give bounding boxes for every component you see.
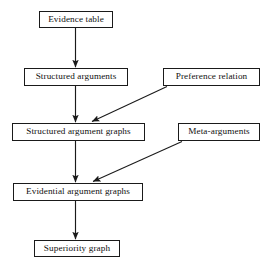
node-structured-argument-graphs[interactable]: Structured argument graphs — [12, 123, 145, 141]
node-superiority-graph[interactable]: Superiority graph — [34, 240, 120, 257]
node-evidence-table[interactable]: Evidence table — [39, 11, 113, 28]
node-evidential-argument-graphs[interactable]: Evidential argument graphs — [13, 183, 143, 201]
node-structured-argument-graphs-label: Structured argument graphs — [25, 127, 132, 136]
node-preference-relation-label: Preference relation — [175, 72, 249, 81]
node-structured-arguments-label: Structured arguments — [35, 72, 118, 81]
node-evidence-table-label: Evidence table — [47, 15, 105, 24]
node-evidential-argument-graphs-label: Evidential argument graphs — [25, 187, 131, 196]
node-meta-arguments[interactable]: Meta-arguments — [178, 123, 260, 141]
flowchart-diagram: Evidence table Structured arguments Pref… — [0, 0, 271, 268]
node-preference-relation[interactable]: Preference relation — [163, 68, 260, 86]
edge-meta-to-evidential — [93, 142, 182, 182]
edge-preference-to-graphs — [92, 87, 167, 122]
node-superiority-graph-label: Superiority graph — [43, 244, 111, 253]
node-structured-arguments[interactable]: Structured arguments — [24, 68, 128, 86]
node-meta-arguments-label: Meta-arguments — [187, 127, 250, 136]
